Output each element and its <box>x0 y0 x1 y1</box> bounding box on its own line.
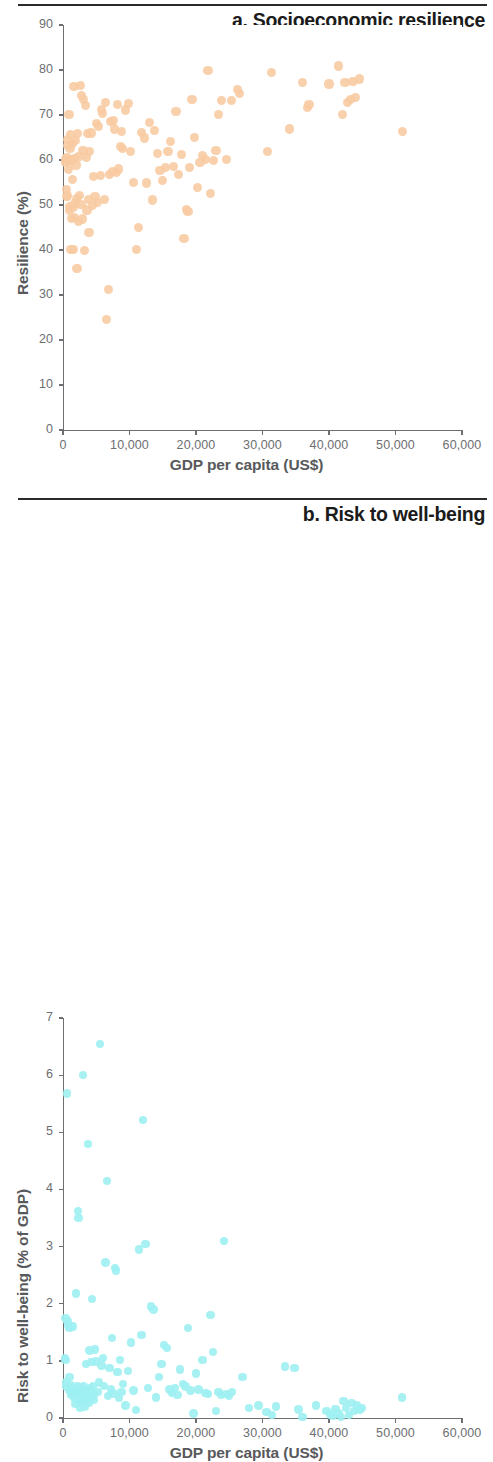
y-axis-line <box>63 25 64 430</box>
y-tick-label: 20 <box>19 332 53 346</box>
y-tick-label: 10 <box>19 377 53 391</box>
x-tick-label: 30,000 <box>228 438 298 452</box>
x-tick-label: 40,000 <box>294 1426 364 1440</box>
y-tick-label: 3 <box>19 1239 53 1253</box>
panel-a-top-rule <box>18 4 487 6</box>
panel-risk-to-wellbeing: b. Risk to well-being Risk to well-being… <box>0 488 493 976</box>
x-tick-mark <box>195 430 196 435</box>
y-tick-mark <box>59 1132 64 1133</box>
y-tick-label: 0 <box>19 422 53 436</box>
y-tick-mark <box>59 1075 64 1076</box>
y-tick-mark <box>59 1303 64 1304</box>
y-tick-mark <box>59 339 64 340</box>
x-tick-label: 0 <box>28 438 98 452</box>
y-tick-mark <box>59 1246 64 1247</box>
panel-b-title: b. Risk to well-being <box>303 503 485 526</box>
y-tick-mark <box>59 1017 64 1018</box>
y-tick-label: 70 <box>19 107 53 121</box>
x-tick-mark <box>62 1418 63 1423</box>
x-tick-mark <box>129 1418 130 1423</box>
x-tick-mark <box>62 430 63 435</box>
x-tick-label: 50,000 <box>361 1426 431 1440</box>
x-tick-label: 50,000 <box>361 438 431 452</box>
y-tick-mark <box>59 1189 64 1190</box>
y-tick-label: 5 <box>19 1124 53 1138</box>
x-tick-label: 0 <box>28 1426 98 1440</box>
x-tick-mark <box>129 430 130 435</box>
x-tick-label: 40,000 <box>294 438 364 452</box>
panel-b-plot-background <box>63 1018 462 1418</box>
x-tick-mark <box>461 430 462 435</box>
panel-a-plot-area: 0102030405060708090010,00020,00030,00040… <box>63 25 462 430</box>
y-tick-label: 50 <box>19 197 53 211</box>
panel-b-top-rule <box>18 498 487 500</box>
x-tick-label: 10,000 <box>95 1426 165 1440</box>
y-tick-label: 1 <box>19 1353 53 1367</box>
y-tick-mark <box>59 69 64 70</box>
y-tick-label: 90 <box>19 17 53 31</box>
x-tick-mark <box>262 430 263 435</box>
y-tick-label: 2 <box>19 1296 53 1310</box>
y-tick-label: 6 <box>19 1067 53 1081</box>
y-tick-mark <box>59 249 64 250</box>
x-tick-mark <box>395 430 396 435</box>
x-tick-mark <box>328 430 329 435</box>
x-tick-mark <box>328 1418 329 1423</box>
x-tick-label: 10,000 <box>95 438 165 452</box>
panel-b-plot-area: 01234567010,00020,00030,00040,00050,0006… <box>63 1018 462 1418</box>
x-tick-label: 30,000 <box>228 1426 298 1440</box>
y-tick-mark <box>59 204 64 205</box>
y-tick-label: 7 <box>19 1010 53 1024</box>
y-tick-label: 40 <box>19 242 53 256</box>
panel-a-x-axis-title: GDP per capita (US$) <box>0 456 493 474</box>
y-tick-mark <box>59 294 64 295</box>
x-tick-mark <box>461 1418 462 1423</box>
y-axis-line <box>63 1018 64 1418</box>
y-tick-label: 60 <box>19 152 53 166</box>
x-tick-label: 20,000 <box>161 1426 231 1440</box>
y-tick-label: 0 <box>19 1410 53 1424</box>
panel-a-plot-background <box>63 25 462 430</box>
panel-b-x-axis-title: GDP per capita (US$) <box>0 1444 493 1462</box>
y-tick-mark <box>59 159 64 160</box>
x-tick-mark <box>262 1418 263 1423</box>
y-tick-label: 30 <box>19 287 53 301</box>
y-tick-label: 80 <box>19 62 53 76</box>
x-tick-label: 20,000 <box>161 438 231 452</box>
x-tick-label: 60,000 <box>427 438 493 452</box>
y-tick-mark <box>59 114 64 115</box>
x-tick-mark <box>195 1418 196 1423</box>
panel-socioeconomic-resilience: a. Socioeconomic resilience Resilience (… <box>0 0 493 488</box>
x-tick-mark <box>395 1418 396 1423</box>
y-tick-label: 4 <box>19 1181 53 1195</box>
y-tick-mark <box>59 1360 64 1361</box>
x-tick-label: 60,000 <box>427 1426 493 1440</box>
y-tick-mark <box>59 24 64 25</box>
y-tick-mark <box>59 384 64 385</box>
